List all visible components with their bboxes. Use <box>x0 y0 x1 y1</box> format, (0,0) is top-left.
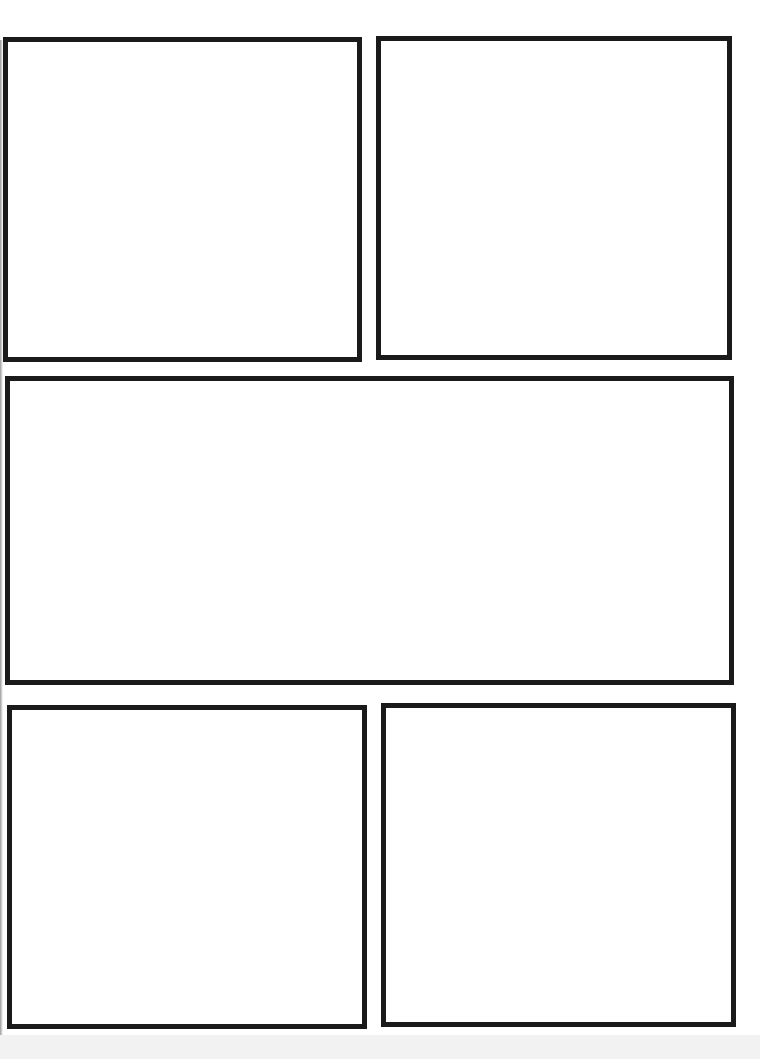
page-bottom-margin <box>0 1035 760 1059</box>
panel-middle-wide <box>5 376 734 685</box>
panel-top-left <box>3 37 362 362</box>
panel-bottom-right <box>381 703 736 1027</box>
comic-page <box>0 0 760 1059</box>
panel-bottom-left <box>7 705 367 1029</box>
panel-top-right <box>376 36 732 360</box>
